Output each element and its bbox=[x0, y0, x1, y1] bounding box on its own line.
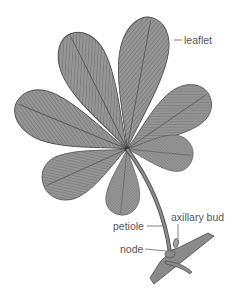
node-label: node bbox=[120, 243, 143, 255]
axillary-bud bbox=[173, 238, 179, 248]
stem bbox=[150, 233, 214, 284]
node bbox=[165, 250, 175, 258]
node-leader-line bbox=[145, 249, 166, 251]
leaflet-label: leaflet bbox=[184, 34, 212, 46]
petiole-label: petiole bbox=[113, 220, 144, 232]
axillary-bud-label: axillary bud bbox=[171, 211, 224, 223]
compound-leaf-diagram: leaflet petiole axillary bud node bbox=[0, 0, 238, 290]
